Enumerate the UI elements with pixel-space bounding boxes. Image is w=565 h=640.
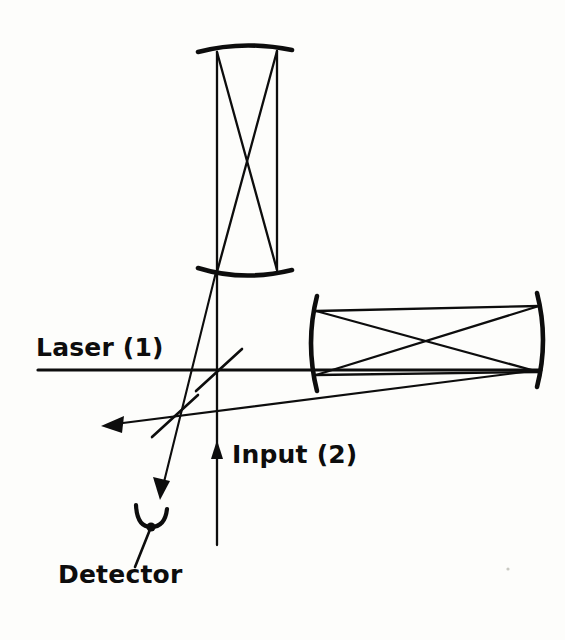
detector-label: Detector	[58, 562, 183, 587]
horizontal-cavity-ray-top	[316, 306, 539, 311]
horizontal-cavity-ray-diagonal-b	[316, 306, 539, 375]
input-beam-arrow-up	[211, 440, 223, 459]
detector-cup-icon	[135, 505, 167, 567]
output-beam-arrow-left	[101, 416, 124, 433]
vertical-optical-cavity	[198, 45, 292, 275]
laser-label: Laser (1)	[36, 335, 164, 360]
optical-diagram-figure: Laser (1) Input (2) Detector	[0, 0, 565, 640]
detector-beam-arrow-down	[153, 477, 170, 500]
input-label: Input (2)	[232, 442, 358, 467]
horizontal-optical-cavity	[311, 293, 543, 391]
diagram-canvas	[0, 0, 565, 640]
scan-speck	[506, 567, 509, 570]
detector-beam	[153, 272, 216, 500]
output-beam-line	[115, 370, 540, 424]
input-beam	[211, 272, 223, 545]
